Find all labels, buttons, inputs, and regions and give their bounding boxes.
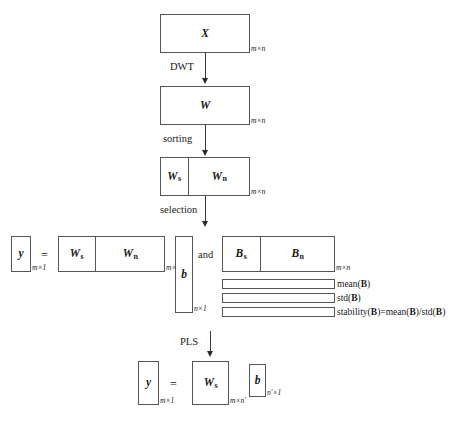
node-eq-y-label: y	[11, 236, 31, 272]
stats-std-bold: B	[351, 293, 357, 303]
node-bs-label: Bs	[222, 236, 260, 272]
equals-sign-main: =	[41, 249, 48, 261]
node-w-split-wn-sub: n	[222, 175, 226, 183]
stats-label-stability: stability(B)=mean(B)/std(B)	[337, 308, 445, 318]
node-eq-wn-label: Wn	[95, 236, 165, 272]
arrow-dwt-head	[202, 78, 208, 84]
node-eq-ws-label: Ws	[58, 236, 95, 272]
stats-stab-bold-1: B	[371, 307, 377, 317]
conjunction-and-label: and	[198, 250, 213, 261]
arrow-sorting-head	[202, 150, 208, 156]
node-w-dim: m×n	[251, 117, 265, 125]
node-final-w-dim: m×n′	[230, 397, 246, 405]
node-x-dim: m×n	[251, 45, 265, 53]
stats-bar-std	[222, 293, 335, 303]
node-b-split-dim: m×n	[336, 264, 350, 272]
stats-stab-bold-2: B	[409, 307, 415, 317]
process-selection-label: selection	[160, 205, 197, 216]
node-bs-sub: s	[244, 253, 247, 261]
process-pls-label: PLS	[180, 337, 198, 348]
equals-sign-final: =	[170, 378, 177, 390]
stats-stab-bold-3: B	[436, 307, 442, 317]
node-w-label: W	[160, 86, 250, 125]
node-w-split-dim: m×n	[251, 188, 265, 196]
node-eq-b-label: b	[175, 236, 193, 313]
node-bn-sub: n	[300, 253, 304, 261]
arrow-selection-head	[202, 221, 208, 227]
node-eq-wn-sub: n	[133, 253, 137, 261]
node-bs-text: B	[236, 248, 244, 260]
node-w-label-text: W	[200, 100, 210, 112]
node-final-y-label: y	[138, 361, 159, 405]
node-eq-y-text: y	[18, 248, 23, 260]
node-w-split-wn-label: Wn	[188, 157, 250, 196]
arrow-pls-line	[210, 331, 211, 352]
stats-bar-stability	[222, 307, 335, 317]
node-x-label-text: X	[201, 28, 209, 40]
stats-bar-mean	[222, 279, 335, 289]
process-sorting-label: sorting	[163, 134, 192, 145]
node-final-y-dim: m×1	[160, 397, 174, 405]
node-final-b-label: b	[249, 364, 266, 397]
node-eq-ws-sub: s	[81, 253, 84, 261]
arrow-selection-line	[205, 196, 206, 222]
stats-mean-bold: B	[361, 279, 367, 289]
node-eq-b-dim: n×1	[194, 305, 207, 313]
process-dwt-label: DWT	[170, 62, 194, 73]
stats-label-mean: mean(B)	[337, 280, 370, 290]
node-w-split-ws-label: Ws	[160, 157, 188, 196]
arrow-sorting-line	[205, 125, 206, 151]
diagram-canvas: X m×n DWT W m×n sorting Ws Wn m×n select…	[0, 0, 450, 422]
node-x-label: X	[160, 14, 250, 53]
node-w-split-ws-text: W	[167, 171, 177, 183]
node-eq-y-dim: m×1	[32, 264, 46, 272]
node-final-b-text: b	[255, 375, 261, 387]
node-eq-wn-text: W	[123, 248, 133, 260]
node-w-split-ws-sub: s	[178, 175, 181, 183]
node-final-y-text: y	[146, 377, 151, 389]
node-bn-label: Bn	[260, 236, 335, 272]
node-final-b-dim: n′×1	[267, 389, 281, 397]
node-eq-b-text: b	[181, 269, 187, 281]
arrow-dwt-line	[205, 53, 206, 79]
node-eq-ws-text: W	[70, 248, 80, 260]
stats-label-std: std(B)	[337, 294, 361, 304]
node-final-w-sub: s	[215, 382, 218, 390]
node-final-w-label: Ws	[192, 361, 229, 405]
node-bn-text: B	[291, 248, 299, 260]
node-final-w-text: W	[204, 377, 214, 389]
arrow-pls-head	[207, 351, 213, 357]
node-w-split-wn-text: W	[212, 171, 222, 183]
